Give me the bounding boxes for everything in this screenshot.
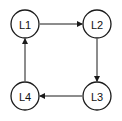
node-label: L2 [91, 19, 103, 31]
node-l1: L1 [11, 10, 39, 38]
node-l4: L4 [11, 82, 39, 110]
node-label: L1 [19, 19, 31, 31]
node-l3: L3 [83, 82, 111, 110]
cycle-diagram: L1L2L3L4 [0, 0, 122, 121]
node-label: L3 [91, 91, 103, 103]
node-label: L4 [19, 91, 31, 103]
node-l2: L2 [83, 10, 111, 38]
